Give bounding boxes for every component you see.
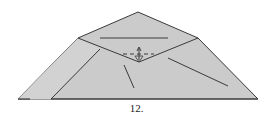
step-number-label: 12.	[0, 102, 273, 114]
paper-model	[18, 12, 258, 99]
